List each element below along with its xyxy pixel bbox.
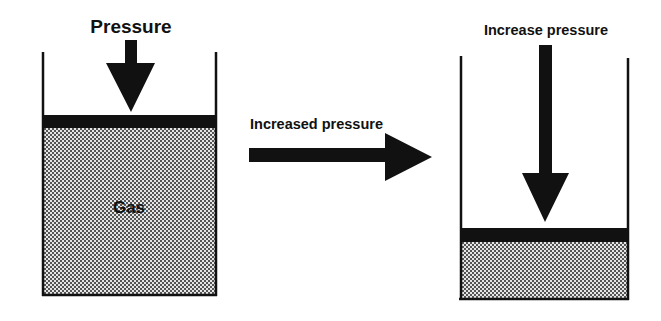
right-pressure-arrow-icon	[522, 45, 569, 222]
left-piston	[42, 115, 217, 128]
transition-label: Increased pressure	[250, 116, 383, 132]
left-pressure-label: Pressure	[90, 16, 171, 37]
right-piston	[460, 228, 629, 242]
gas-label: Gas	[113, 198, 145, 217]
left-cylinder: Pressure Gas	[42, 16, 217, 296]
right-pressure-label: Increase pressure	[484, 22, 608, 38]
gas-pressure-diagram: Pressure Gas Increased pressure Increase…	[0, 0, 661, 321]
transition-arrow-icon	[249, 133, 432, 181]
right-cylinder: Increase pressure	[459, 22, 629, 300]
right-gas-fill	[460, 242, 628, 299]
left-pressure-arrow-icon	[106, 40, 155, 112]
transition: Increased pressure	[249, 116, 432, 181]
